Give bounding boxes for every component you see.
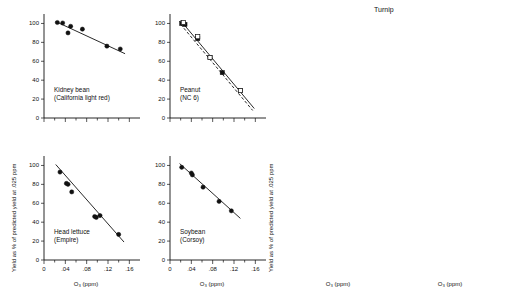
plot-head-lettuce: 0204060801000.04.08.12.16Head lettuce(Em… [26, 156, 148, 284]
fit-line-regression [56, 22, 125, 54]
data-point [217, 199, 221, 203]
x-tick-label: 0 [168, 266, 172, 272]
x-axis-label-just-right: O₃ (ppm) [410, 281, 490, 287]
y-tick-label: 60 [158, 200, 165, 206]
y-tick-label: 80 [158, 181, 165, 187]
group-title-turnip: Turnip [374, 6, 394, 13]
y-tick-label: 80 [32, 39, 39, 45]
data-point [220, 71, 224, 75]
data-point [238, 88, 242, 92]
panel-soybean: 0204060801000.04.08.12.16Soybean(Corsoy) [152, 156, 274, 284]
x-tick-label: .16 [251, 266, 260, 272]
data-point [180, 165, 184, 169]
y-tick-label: 0 [36, 115, 40, 121]
plot-soybean: 0204060801000.04.08.12.16Soybean(Corsoy) [152, 156, 274, 284]
data-point [208, 55, 212, 59]
x-tick-label: 0 [42, 266, 46, 272]
data-point [190, 173, 194, 177]
y-tick-label: 60 [32, 58, 39, 64]
x-tick-label: .12 [104, 266, 113, 272]
panel-title: Soybean [180, 228, 206, 236]
y-tick-label: 100 [155, 20, 166, 26]
data-point [66, 182, 70, 186]
data-point [69, 24, 73, 28]
data-point [58, 170, 62, 174]
x-tick-label: .04 [61, 266, 70, 272]
y-axis-label-left: Yield as % of predicted yield at .025 pp… [11, 163, 17, 272]
data-point [181, 20, 185, 24]
y-tick-label: 0 [162, 257, 166, 263]
data-point [55, 20, 59, 24]
axis-lines [170, 14, 266, 118]
x-tick-label: .08 [208, 266, 217, 272]
panel-subtitle: (Corsoy) [180, 236, 205, 244]
x-tick-label: .12 [230, 266, 239, 272]
y-tick-label: 20 [32, 96, 39, 102]
panel-title: Peanut [180, 86, 200, 93]
panel-title: Head lettuce [54, 228, 90, 235]
y-tick-label: 100 [155, 162, 166, 168]
data-point [70, 190, 74, 194]
axis-lines [170, 156, 266, 260]
y-tick-label: 20 [158, 238, 165, 244]
data-point [118, 47, 122, 51]
y-tick-label: 20 [32, 238, 39, 244]
data-point [98, 213, 102, 217]
y-tick-label: 0 [162, 115, 166, 121]
y-tick-label: 40 [32, 77, 39, 83]
y-tick-label: 40 [158, 219, 165, 225]
data-point [196, 35, 200, 39]
ozone-dose-response-figure: Yield as % of predicted yield at .025 pp… [0, 0, 506, 300]
panel-subtitle: (Empire) [54, 236, 79, 244]
panel-head-lettuce: 0204060801000.04.08.12.16Head lettuce(Em… [26, 156, 148, 284]
panel-title: Kidney bean [54, 86, 90, 94]
panel-subtitle: (California light red) [54, 94, 110, 102]
x-tick-label: .04 [187, 266, 196, 272]
data-point [61, 21, 65, 25]
y-tick-label: 80 [158, 39, 165, 45]
data-point [201, 185, 205, 189]
x-axis-label-shogoin: O₃ (ppm) [298, 281, 378, 287]
plot-peanut: 020406080100Peanut(NC 6) [152, 14, 274, 142]
y-tick-label: 40 [158, 77, 165, 83]
data-point [117, 232, 121, 236]
panel-subtitle: (NC 6) [180, 94, 199, 102]
data-point [229, 209, 233, 213]
plot-kidney-bean: 020406080100Kidney bean(California light… [26, 14, 148, 142]
panel-kidney-bean: 020406080100Kidney bean(California light… [26, 14, 148, 142]
chart-group-right: Turnip Yield as % of predicted yield at … [262, 0, 506, 300]
y-tick-label: 20 [158, 96, 165, 102]
x-tick-label: .08 [82, 266, 91, 272]
x-axis-label-head-lettuce: O₃ (ppm) [46, 281, 126, 287]
panel-peanut: 020406080100Peanut(NC 6) [152, 14, 274, 142]
data-point [80, 27, 84, 31]
y-tick-label: 60 [158, 58, 165, 64]
y-tick-label: 80 [32, 181, 39, 187]
y-tick-label: 100 [29, 20, 40, 26]
y-tick-label: 60 [32, 200, 39, 206]
data-point [66, 31, 70, 35]
y-tick-label: 40 [32, 219, 39, 225]
axis-lines [44, 14, 140, 118]
y-tick-label: 0 [36, 257, 40, 263]
chart-group-left: Yield as % of predicted yield at .025 pp… [0, 0, 262, 300]
y-axis-label-right: Yield as % of predicted yield at .025 pp… [268, 163, 274, 272]
x-tick-label: .16 [125, 266, 134, 272]
x-axis-label-soybean: O₃ (ppm) [172, 281, 252, 287]
y-tick-label: 100 [29, 162, 40, 168]
data-point [105, 44, 109, 48]
